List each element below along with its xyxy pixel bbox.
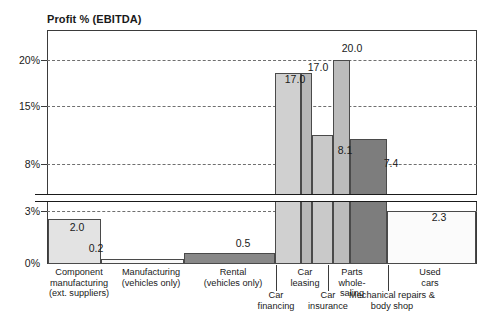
value-label-mechanical-repairs: 7.4 xyxy=(375,158,407,169)
category-label-car-leasing: Car leasing xyxy=(281,267,329,288)
category-line-1: Component xyxy=(48,267,110,278)
gridline-20 xyxy=(47,60,477,61)
bar-car-financing[interactable] xyxy=(275,73,301,264)
category-line-2: whole- xyxy=(330,278,374,289)
y-axis-label-0: 0% xyxy=(2,258,40,268)
gridline-8 xyxy=(47,164,477,165)
category-line-1: Car xyxy=(281,267,329,278)
category-label-component-manufacturing: Component manufacturing (ext. suppliers) xyxy=(48,267,110,299)
category-line-1: Used xyxy=(398,267,462,278)
axis-break-rule-lower xyxy=(47,201,477,202)
category-label-manufacturing-vehicles: Manufacturing (vehicles only) xyxy=(110,267,192,288)
value-label-parts-wholesaling: 20.0 xyxy=(331,43,373,54)
leader-line-car-financing xyxy=(276,265,277,291)
category-line-2: body shop xyxy=(340,301,444,312)
bar-manufacturing-vehicles[interactable] xyxy=(101,259,184,264)
category-line-2: manufacturing xyxy=(48,278,110,289)
category-line-2: (vehicles only) xyxy=(110,278,192,289)
bars-layer xyxy=(47,30,477,264)
bar-rental-vehicles[interactable] xyxy=(184,253,275,264)
value-label-component-manufacturing: 2.0 xyxy=(57,222,97,233)
value-label-rental-vehicles: 0.5 xyxy=(223,238,263,249)
axis-break-rule-upper xyxy=(47,194,477,195)
gridline-15 xyxy=(47,106,477,107)
category-label-mechanical-repairs: Mechanical repairs & body shop xyxy=(340,290,444,311)
value-label-used-cars: 2.3 xyxy=(423,212,455,223)
category-line-1: Parts xyxy=(330,267,374,278)
category-line-2: cars xyxy=(398,278,462,289)
value-label-car-insurance: 8.1 xyxy=(330,145,360,156)
y-axis-label-15: 15% xyxy=(2,101,40,111)
category-line-1: Manufacturing xyxy=(110,267,192,278)
category-line-2: (vehicles only) xyxy=(192,278,274,289)
category-line-1: Mechanical repairs & xyxy=(340,290,444,301)
category-line-3: (ext. suppliers) xyxy=(48,288,110,299)
value-label-car-financing: 17.0 xyxy=(275,74,315,85)
category-label-used-cars: Used cars xyxy=(398,267,462,288)
bar-car-leasing[interactable] xyxy=(301,73,312,264)
chart-root: Profit % (EBITDA) 20% 15% 8% 3% 0% xyxy=(0,0,490,324)
chart-title: Profit % (EBITDA) xyxy=(47,13,142,25)
value-label-car-leasing: 17.0 xyxy=(298,62,338,73)
y-axis-label-20: 20% xyxy=(2,55,40,65)
category-label-rental-vehicles: Rental (vehicles only) xyxy=(192,267,274,288)
category-line-1: Rental xyxy=(192,267,274,278)
category-line-2: leasing xyxy=(281,278,329,289)
leader-line-mechanical-repairs xyxy=(388,265,389,291)
y-axis-label-8: 8% xyxy=(2,159,40,169)
bar-parts-wholesaling[interactable] xyxy=(333,60,350,264)
y-axis: 20% 15% 8% 3% 0% xyxy=(0,0,40,324)
value-label-manufacturing-vehicles: 0.2 xyxy=(76,243,116,254)
leader-line-car-insurance xyxy=(328,265,329,291)
y-axis-label-3: 3% xyxy=(2,206,40,216)
